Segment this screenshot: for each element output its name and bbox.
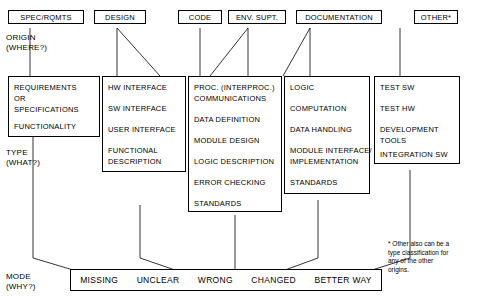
type-item: DESCRIPTION (108, 157, 161, 166)
type-item: DATA DEFINITION (194, 115, 260, 124)
footnote-line-3: any of the other (388, 257, 449, 266)
type-item: MODULE DESIGN (194, 136, 260, 145)
diagram-canvas: SPEC/RQMTS DESIGN CODE ENV. SUPT. DOCUME… (0, 0, 484, 300)
type-item: HW INTERFACE (108, 83, 167, 92)
mode-box[interactable]: MISSING UNCLEAR WRONG CHANGED BETTER WAY (70, 269, 382, 291)
origin-box-other[interactable]: OTHER* (414, 10, 458, 24)
mode-item-wrong[interactable]: WRONG (198, 275, 233, 285)
section-label-origin-line2: (WHERE?) (6, 43, 47, 53)
origin-box-spec-rqmts[interactable]: SPEC/RQMTS (8, 10, 84, 24)
origin-box-label: CODE (189, 13, 211, 22)
type-item: COMPUTATION (290, 104, 347, 113)
footnote-line-2: type classification for (388, 249, 449, 258)
type-column-design[interactable]: HW INTERFACE SW INTERFACE USER INTERFACE… (102, 76, 186, 172)
section-label-mode-line1: MODE (6, 272, 36, 282)
type-item: IMPLEMENTATION (290, 157, 358, 166)
type-item: INTEGRATION SW (380, 150, 448, 159)
type-item: FUNCTIONAL (108, 146, 158, 155)
section-label-type: TYPE (WHAT?) (6, 148, 40, 168)
type-column-spec-rqmts[interactable]: REQUIREMENTS OR SPECIFICATIONS FUNCTIONA… (8, 76, 100, 137)
type-item: MODULE INTERFACE/ (290, 146, 372, 155)
type-item: PROC. (INTERPROC.) (194, 83, 275, 92)
origin-box-label: SPEC/RQMTS (20, 13, 72, 22)
type-item: STANDARDS (194, 199, 242, 208)
footnote-line-1: * Other also can be a (388, 240, 449, 249)
type-column-code-proc[interactable]: PROC. (INTERPROC.) COMMUNICATIONS DATA D… (188, 76, 282, 212)
type-item: TEST HW (380, 104, 415, 113)
type-item: OR (14, 94, 26, 103)
type-item: USER INTERFACE (108, 125, 176, 134)
mode-item-better-way[interactable]: BETTER WAY (314, 275, 371, 285)
mode-item-unclear[interactable]: UNCLEAR (137, 275, 180, 285)
footnote: * Other also can be a type classificatio… (388, 240, 449, 274)
section-label-type-line1: TYPE (6, 148, 40, 158)
type-item: DATA HANDLING (290, 125, 352, 134)
type-item: LOGIC (290, 83, 314, 92)
type-item: TEST SW (380, 83, 415, 92)
origin-box-env-supt[interactable]: ENV. SUPT. (228, 10, 286, 24)
type-column-logic[interactable]: LOGIC COMPUTATION DATA HANDLING MODULE I… (284, 76, 370, 194)
type-item: SPECIFICATIONS (14, 105, 79, 114)
type-column-test-sw[interactable]: TEST SW TEST HW DEVELOPMENT TOOLS INTEGR… (374, 76, 460, 164)
origin-box-design[interactable]: DESIGN (94, 10, 146, 24)
mode-item-missing[interactable]: MISSING (80, 275, 118, 285)
section-label-mode-line2: (WHY?) (6, 282, 36, 292)
type-item: COMMUNICATIONS (194, 94, 266, 103)
type-item: LOGIC DESCRIPTION (194, 157, 274, 166)
section-label-origin-line1: ORIGIN (6, 33, 47, 43)
origin-box-label: OTHER* (421, 13, 451, 22)
origin-box-label: DESIGN (105, 13, 135, 22)
origin-box-code[interactable]: CODE (178, 10, 222, 24)
origin-box-label: DOCUMENTATION (305, 13, 373, 22)
origin-box-label: ENV. SUPT. (236, 13, 278, 22)
type-item: STANDARDS (290, 178, 338, 187)
section-label-mode: MODE (WHY?) (6, 272, 36, 292)
type-item: REQUIREMENTS (14, 83, 77, 92)
type-item: SW INTERFACE (108, 104, 167, 113)
origin-box-documentation[interactable]: DOCUMENTATION (296, 10, 382, 24)
type-item: DEVELOPMENT (380, 125, 439, 134)
type-item: TOOLS (380, 136, 406, 145)
section-label-type-line2: (WHAT?) (6, 158, 40, 168)
mode-item-changed[interactable]: CHANGED (251, 275, 296, 285)
footnote-line-4: origins. (388, 266, 449, 275)
type-item: ERROR CHECKING (194, 178, 266, 187)
section-label-origin: ORIGIN (WHERE?) (6, 33, 47, 53)
type-item: FUNCTIONALITY (14, 122, 76, 131)
